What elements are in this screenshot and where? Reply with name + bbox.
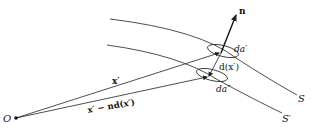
displacement-label: d(x′) bbox=[219, 62, 239, 72]
diagram-canvas: O n da′ da″ d(x′) x′ x′ − nd(x′) S S′ bbox=[0, 0, 315, 131]
vector-lower-label: x′ − nd(x′) bbox=[87, 97, 136, 115]
surface-s-prime-label: S′ bbox=[282, 113, 292, 124]
surface-s-label: S bbox=[298, 93, 305, 104]
normal-label: n bbox=[239, 6, 246, 16]
area-lower-label: da″ bbox=[216, 84, 231, 94]
vector-upper-label: x′ bbox=[112, 76, 120, 86]
surface-s-curve bbox=[110, 19, 297, 95]
surface-diagram: O n da′ da″ d(x′) x′ x′ − nd(x′) S S′ bbox=[0, 0, 315, 131]
area-upper-label: da′ bbox=[234, 44, 247, 54]
origin-point bbox=[14, 116, 18, 120]
origin-label: O bbox=[3, 113, 11, 124]
